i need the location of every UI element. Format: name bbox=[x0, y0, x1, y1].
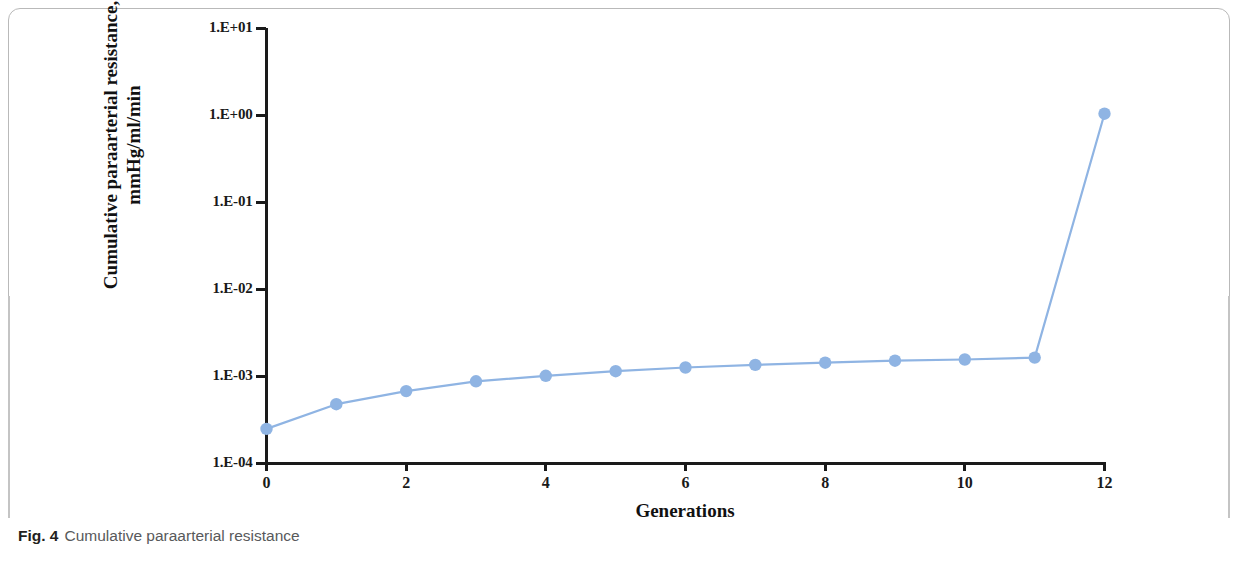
data-point-marker bbox=[330, 398, 342, 410]
figure-page: 1.E-041.E-031.E-021.E-011.E+001.E+01 024… bbox=[0, 0, 1238, 562]
data-point-marker bbox=[610, 365, 622, 377]
data-point-marker bbox=[540, 370, 552, 382]
figure-caption-label: Fig. 4 bbox=[18, 527, 58, 544]
figure-caption-text: Cumulative paraarterial resistance bbox=[64, 527, 299, 544]
data-point-marker bbox=[1098, 108, 1110, 120]
series-line bbox=[267, 114, 1105, 429]
data-point-marker bbox=[1029, 351, 1041, 363]
data-point-marker bbox=[819, 357, 831, 369]
data-point-marker bbox=[959, 353, 971, 365]
chart-plot-area: 1.E-041.E-031.E-021.E-011.E+001.E+01 024… bbox=[0, 0, 1238, 562]
data-point-marker bbox=[400, 385, 412, 397]
data-point-marker bbox=[260, 423, 272, 435]
series-markers bbox=[260, 108, 1110, 436]
data-point-marker bbox=[470, 375, 482, 387]
series-graphic bbox=[0, 0, 1238, 562]
data-point-marker bbox=[889, 355, 901, 367]
data-point-marker bbox=[679, 361, 691, 373]
figure-caption: Fig. 4Cumulative paraarterial resistance bbox=[18, 527, 300, 545]
data-point-marker bbox=[749, 359, 761, 371]
